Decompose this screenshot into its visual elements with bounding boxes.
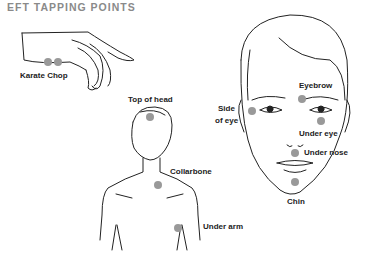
label-under-eye: Under eye: [299, 129, 338, 139]
karate-chop-dot-2: [54, 58, 62, 66]
collarbone-dot: [154, 181, 162, 189]
top-of-head-dot: [146, 113, 154, 121]
under-arm-dot: [174, 224, 182, 232]
label-chin: Chin: [287, 197, 305, 207]
eyebrow-dot: [298, 95, 306, 103]
face-illustration: [239, 15, 350, 194]
label-side: Side: [218, 104, 235, 114]
karate-chop-dot-1: [44, 58, 52, 66]
label-top-of-head: Top of head: [128, 95, 173, 105]
label-collarbone: Collarbone: [170, 167, 212, 177]
label-under-arm: Under arm: [203, 222, 243, 232]
hand-illustration: [22, 32, 134, 90]
label-of-eye: of eye: [215, 116, 238, 126]
label-under-nose: Under nose: [304, 148, 348, 158]
under-nose-dot: [291, 149, 299, 157]
chin-dot: [291, 178, 299, 186]
label-eyebrow: Eyebrow: [299, 81, 332, 91]
label-karate-chop: Karate Chop: [20, 71, 68, 81]
body-illustration: [100, 107, 200, 250]
eft-diagram: EFT TAPPING POINTS: [0, 0, 369, 268]
under-eye-dot: [317, 117, 325, 125]
side-of-eye-dot: [248, 107, 256, 115]
